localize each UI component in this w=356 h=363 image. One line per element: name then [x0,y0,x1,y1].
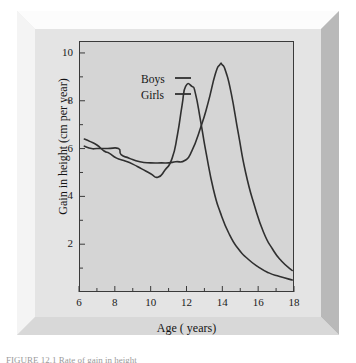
x-tick-label: 6 [68,297,90,308]
frame-bevel-left [17,11,35,335]
data-series [84,63,292,280]
figure-frame: 246810 681012141618 Gain in height (cm p… [17,11,339,335]
legend-swatches [175,78,191,94]
x-axis-title: Age ( years) [79,321,294,336]
growth-rate-chart: 246810 681012141618 Gain in height (cm p… [35,29,321,317]
frame-bevel-right [321,11,339,335]
x-tick-label: 12 [176,297,198,308]
x-tick-label: 10 [140,297,162,308]
y-axis-title: Gain in height (cm per year) [56,47,71,247]
frame-bevel-top [17,11,339,29]
x-tick-label: 18 [283,297,305,308]
figure-caption: FIGURE 12.1 Rate of gain in height [6,355,137,363]
x-tick-label: 16 [247,297,269,308]
legend-item-girls-label: Girls [141,89,164,101]
figure-inner-panel: 246810 681012141618 Gain in height (cm p… [35,29,321,317]
axis-ticks [79,53,294,292]
series-line-girls [84,84,292,281]
x-tick-label: 8 [104,297,126,308]
legend-item-boys-label: Boys [141,73,165,85]
plot-svg [35,29,321,317]
x-tick-label: 14 [211,297,233,308]
